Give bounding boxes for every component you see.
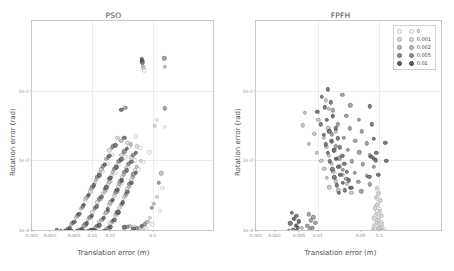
scatter-point: [336, 136, 340, 140]
panel-fpfh: FPFH Rotation error (rad) 00.0010.0020.0…: [227, 0, 454, 271]
scatter-point: [163, 106, 167, 110]
scatter-point: [329, 139, 333, 143]
scatter-point: [121, 200, 125, 204]
scatter-point: [332, 148, 336, 152]
scatter-point: [367, 175, 371, 179]
legend-marker-icon: [397, 53, 402, 58]
gridline-horizontal: [32, 160, 213, 161]
scatter-point: [123, 105, 127, 109]
y-tick-mark: [30, 90, 32, 91]
legend-marker-icon: [409, 61, 414, 66]
scatter-point: [379, 214, 383, 218]
scatter-point: [356, 180, 360, 184]
legend-item[interactable]: 0.005: [397, 52, 431, 59]
scatter-point: [372, 136, 376, 140]
scatter-point: [308, 227, 312, 230]
panel-title-fpfh: FPFH: [227, 11, 454, 20]
y-tick-mark: [254, 160, 256, 161]
scatter-point: [158, 208, 162, 212]
scatter-point: [345, 170, 349, 174]
panel-pso: PSO Rotation error (rad) 1e-11e-21e-30.0…: [0, 0, 227, 271]
legend-item[interactable]: 0.002: [397, 44, 431, 51]
scatter-point: [133, 171, 137, 175]
scatter-point: [124, 147, 128, 151]
scatter-point: [131, 227, 135, 230]
x-tick-mark: [360, 230, 361, 232]
scatter-point: [349, 186, 353, 190]
scatter-point: [133, 134, 137, 138]
legend-marker-pair: [397, 53, 414, 58]
scatter-point: [384, 159, 388, 163]
scatter-point: [90, 214, 94, 218]
scatter-point: [85, 221, 89, 225]
scatter-point: [307, 142, 311, 146]
scatter-point: [152, 124, 156, 128]
scatter-point: [72, 219, 76, 223]
legend-item[interactable]: 0.01: [397, 60, 431, 67]
scatter-point: [97, 173, 101, 177]
scatter-point: [111, 198, 115, 202]
scatter-point: [360, 129, 364, 133]
panel-title-pso: PSO: [0, 11, 227, 20]
scatter-point: [301, 123, 305, 127]
legend-item[interactable]: 0.001: [397, 36, 431, 43]
scatter-point: [116, 210, 120, 214]
y-tick-mark: [30, 160, 32, 161]
scatter-point: [82, 229, 86, 230]
scatter-point: [347, 178, 351, 182]
x-tick-mark: [50, 230, 51, 232]
legend-label: 0: [417, 28, 420, 35]
legend-marker-pair: [397, 29, 414, 34]
legend-label: 0.002: [417, 44, 431, 51]
scatter-point: [163, 125, 167, 129]
gridline-vertical: [92, 21, 93, 230]
scatter-point: [343, 188, 347, 192]
scatter-point: [150, 222, 154, 226]
legend-marker-pair: [397, 61, 414, 66]
scatter-point: [374, 151, 378, 155]
scatter-point: [383, 140, 387, 144]
noise-level-legend[interactable]: 00.0010.0020.0050.01: [393, 25, 436, 70]
scatter-point: [345, 147, 349, 151]
scatter-point: [122, 225, 126, 229]
legend-marker-icon: [409, 53, 414, 58]
scatter-point: [82, 203, 86, 207]
x-tick-mark: [317, 230, 318, 232]
legend-item[interactable]: 0: [397, 28, 431, 35]
x-tick-mark: [74, 230, 75, 232]
scatter-point: [348, 103, 352, 107]
scatter-point: [77, 211, 81, 215]
legend-label: 0.005: [417, 52, 431, 59]
legend-marker-icon: [397, 29, 402, 34]
scatter-point: [132, 158, 136, 162]
scatter-point: [129, 180, 133, 184]
legend-marker-icon: [409, 45, 414, 50]
legend-label: 0.01: [417, 60, 428, 67]
scatter-point: [368, 182, 372, 186]
scatter-point: [97, 223, 101, 227]
scatter-point: [318, 122, 322, 126]
scatter-point: [331, 108, 335, 112]
scatter-point: [342, 162, 346, 166]
scatter-point: [328, 100, 332, 104]
scatter-point: [111, 153, 115, 157]
y-tick-mark: [254, 90, 256, 91]
x-tick-mark: [92, 230, 93, 232]
scatter-point: [315, 109, 319, 113]
scatter-point: [356, 118, 360, 122]
scatter-point: [337, 191, 341, 195]
x-tick-mark: [32, 230, 33, 232]
scatter-point: [160, 186, 164, 190]
scatter-point: [359, 189, 363, 193]
scatter-point: [353, 138, 357, 142]
scatter-point: [319, 159, 323, 163]
scatter-point: [327, 185, 331, 189]
scatter-point: [322, 167, 326, 171]
scatter-point: [155, 118, 159, 122]
scatter-point: [349, 191, 353, 195]
legend-marker-pair: [397, 37, 414, 42]
scatter-point: [155, 195, 159, 199]
gridline-horizontal: [32, 91, 213, 92]
gridline-horizontal: [256, 91, 441, 92]
y-axis-label-pso: Rotation error (rad): [9, 108, 17, 176]
